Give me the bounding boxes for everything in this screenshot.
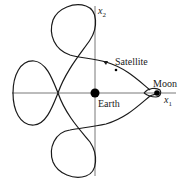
satellite-label: Satellite: [115, 57, 148, 67]
x1-axis-label: x1: [164, 95, 172, 108]
earth-label: Earth: [98, 99, 120, 109]
x2-axis-label: x2: [98, 6, 106, 19]
satellite-dot: [115, 69, 118, 72]
diagram-canvas: x2 x1 Satellite Moon Earth: [0, 0, 188, 185]
trajectory-diagram: [0, 0, 188, 185]
earth-body: [91, 89, 100, 98]
satellite-trajectory: [13, 5, 157, 177]
moon-label: Moon: [153, 79, 177, 89]
moon-body: [154, 90, 160, 96]
